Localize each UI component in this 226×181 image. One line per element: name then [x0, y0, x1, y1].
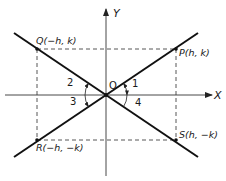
origin-point [104, 93, 108, 97]
point-s-label: S(h, −k) [179, 129, 218, 140]
angle-4-label: 4 [135, 97, 141, 108]
y-axis-label: Y [113, 7, 121, 20]
angle-4-arc [124, 95, 127, 107]
angle-1-label: 1 [132, 78, 138, 89]
x-axis-label: X [213, 89, 222, 102]
origin-label: O [109, 80, 117, 91]
point-p-label: P(h, k) [179, 47, 210, 58]
point-q [35, 47, 39, 51]
point-q-label: Q(−h, k) [36, 35, 76, 46]
angle-3-arc [85, 95, 88, 107]
point-p [174, 47, 178, 51]
angle-2-arc [85, 83, 88, 95]
point-s [174, 138, 178, 142]
coordinate-symmetry-diagram: Y X O P(h, k) Q(−h, k) R(−h, −k) S(h, −k… [0, 0, 226, 181]
angle-2-label: 2 [67, 77, 73, 88]
angle-3-label: 3 [70, 96, 76, 107]
angle-1-arc [124, 83, 127, 95]
point-r-label: R(−h, −k) [36, 142, 84, 153]
